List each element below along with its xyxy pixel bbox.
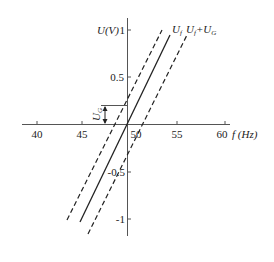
line-uf bbox=[80, 35, 170, 222]
y-axis-label: U(V) bbox=[97, 24, 119, 37]
ug-label: UG bbox=[90, 108, 104, 121]
x-tick-55: 55 bbox=[172, 128, 184, 140]
label-uf-plus-ug: Uf+UG bbox=[186, 23, 216, 37]
x-tick-40: 40 bbox=[32, 128, 44, 140]
y-tick-1: 1 bbox=[120, 24, 126, 36]
label-uf: Uf bbox=[172, 23, 183, 37]
ug-arrow-down-icon bbox=[103, 119, 108, 124]
x-tick-60: 60 bbox=[217, 128, 229, 140]
x-axis-label: f (Hz) bbox=[232, 128, 258, 141]
x-tick-45: 45 bbox=[77, 128, 89, 140]
y-tick-minus-1: -1 bbox=[116, 213, 125, 225]
x-ticks bbox=[37, 121, 225, 125]
x-tick-labels: 40 45 50 55 60 bbox=[32, 128, 229, 140]
y-tick-0-5: 0.5 bbox=[110, 71, 124, 83]
frequency-voltage-chart: 40 45 50 55 60 f (Hz) 1 0.5 -0.5 -1 U(V)… bbox=[0, 0, 274, 262]
